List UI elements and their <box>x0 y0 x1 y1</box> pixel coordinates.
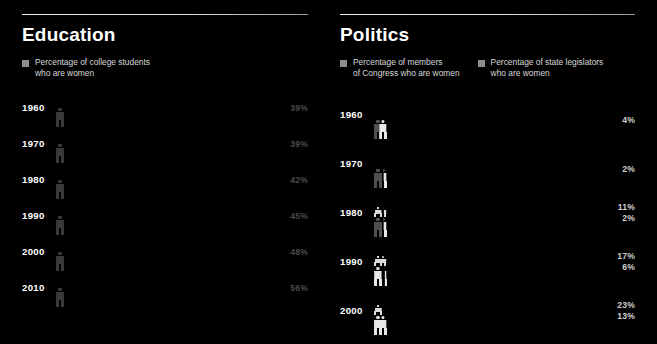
row-value-label: 42% <box>278 175 308 185</box>
education-rows: 196039%197039%198042%199045%200048%20105… <box>22 90 308 306</box>
pictogram-row-congress: 13% <box>378 311 635 321</box>
table-row: 199045% <box>22 198 308 234</box>
person-icon <box>378 120 388 139</box>
row-series-stack: 23%13% <box>378 300 635 321</box>
table-row: 19604% <box>340 90 635 139</box>
panel-title-education: Education <box>22 25 308 44</box>
row-year-label: 2000 <box>22 246 60 257</box>
pictogram-row-spacer <box>378 153 635 164</box>
legend-item-college-students: Percentage of college students who are w… <box>22 57 150 80</box>
row-value-label-congress: 13% <box>609 311 635 321</box>
row-value-label-state-legislators: 23% <box>609 300 635 310</box>
legend-swatch-icon <box>340 60 347 67</box>
table-row: 200048% <box>22 234 308 270</box>
panel-politics: Politics Percentage of members of Congre… <box>330 0 657 344</box>
row-series-stack: 2% <box>378 153 635 174</box>
row-value-label: 48% <box>278 247 308 257</box>
row-year-label: 1990 <box>22 210 60 221</box>
row-year-label: 1990 <box>340 256 378 267</box>
panel-rule-politics <box>340 14 635 15</box>
row-year-label: 1960 <box>22 102 60 113</box>
row-series-stack: 17%6% <box>378 251 635 272</box>
row-year-label: 1970 <box>340 158 378 169</box>
row-year-label: 2010 <box>22 282 60 293</box>
pictogram-row-congress: 6% <box>378 262 635 272</box>
table-row: 198011%2% <box>340 188 635 237</box>
table-row: 201025%17% <box>340 335 635 344</box>
row-value-label: 45% <box>278 211 308 221</box>
infographic-board: Education Percentage of college students… <box>0 0 657 344</box>
row-value-label: 39% <box>278 103 308 113</box>
table-row: 200023%13% <box>340 286 635 335</box>
panel-rule-education <box>22 14 308 15</box>
pictogram-row-state-legislators: 23% <box>378 300 635 310</box>
row-value-label-state-legislators: 11% <box>609 202 635 212</box>
legend-label: Percentage of state legislators who are … <box>491 57 604 80</box>
row-value-label: 56% <box>278 283 308 293</box>
legend-swatch-icon <box>478 60 485 67</box>
legend-education: Percentage of college students who are w… <box>22 57 308 80</box>
row-year-label: 1960 <box>340 109 378 120</box>
legend-swatch-icon <box>22 60 29 67</box>
legend-label: Percentage of members of Congress who ar… <box>353 57 460 80</box>
legend-politics: Percentage of members of Congress who ar… <box>340 57 635 80</box>
row-value-label: 39% <box>278 139 308 149</box>
table-row: 19702% <box>340 139 635 188</box>
pictogram-row-congress: 4% <box>378 115 635 125</box>
row-year-label: 1980 <box>22 174 60 185</box>
table-row: 199017%6% <box>340 237 635 286</box>
row-value-label-congress: 2% <box>609 213 635 223</box>
pictogram-row-spacer <box>378 104 635 115</box>
table-row: 201056% <box>22 270 308 306</box>
row-year-label: 1970 <box>22 138 60 149</box>
pictogram-row-congress: 2% <box>378 213 635 223</box>
legend-label: Percentage of college students who are w… <box>35 57 150 80</box>
pictogram-row-congress: 2% <box>378 164 635 174</box>
panel-education: Education Percentage of college students… <box>0 0 330 344</box>
row-value-label-state-legislators: 17% <box>609 251 635 261</box>
table-row: 196039% <box>22 90 308 126</box>
legend-item-congress: Percentage of members of Congress who ar… <box>340 57 460 80</box>
row-year-label: 2000 <box>340 305 378 316</box>
row-year-label: 1980 <box>340 207 378 218</box>
politics-rows: 19604%19702%198011%2%199017%6%200023%13%… <box>340 90 635 344</box>
table-row: 198042% <box>22 162 308 198</box>
row-value-label-congress: 2% <box>609 164 635 174</box>
row-series-stack: 4% <box>378 104 635 125</box>
pictogram-row-state-legislators: 17% <box>378 251 635 261</box>
panel-title-politics: Politics <box>340 25 635 44</box>
table-row: 197039% <box>22 126 308 162</box>
row-series-stack: 11%2% <box>378 202 635 223</box>
legend-item-state-legislators: Percentage of state legislators who are … <box>478 57 604 80</box>
row-value-label-congress: 4% <box>609 115 635 125</box>
row-value-label-congress: 6% <box>609 262 635 272</box>
pictogram-row-state-legislators: 11% <box>378 202 635 212</box>
